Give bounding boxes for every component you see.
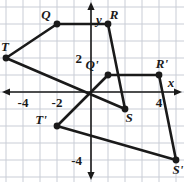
point-label-R': R' xyxy=(155,56,169,71)
point-label-T': T' xyxy=(35,112,47,127)
x-tick-label-4: 4 xyxy=(156,95,163,110)
x-axis-label: x xyxy=(167,75,175,90)
point-label-S': S' xyxy=(173,162,184,177)
y-tick-label--4: -4 xyxy=(71,153,82,168)
point-label-Q: Q xyxy=(41,7,51,22)
point-label-T: T xyxy=(1,39,10,54)
x-tick-label--4: -4 xyxy=(18,95,29,110)
x-tick-label--2: -2 xyxy=(52,95,63,110)
y-axis-label: y xyxy=(94,12,102,27)
coordinate-plane-svg: -4-242-4 QRSTQ'R'S'T' xy xyxy=(0,0,184,182)
point-label-R: R xyxy=(109,7,119,22)
coordinate-graph-figure: -4-242-4 QRSTQ'R'S'T' xy xyxy=(0,0,184,182)
vertex-dot-R' xyxy=(156,72,163,79)
vertex-dot-Q' xyxy=(105,72,112,79)
point-label-Q': Q' xyxy=(86,57,99,72)
y-tick-label-2: 2 xyxy=(76,51,83,66)
point-label-S: S xyxy=(125,110,132,125)
vertex-dot-Q xyxy=(54,21,61,28)
vertex-dot-T' xyxy=(54,123,61,130)
vertex-dot-T xyxy=(3,55,10,62)
